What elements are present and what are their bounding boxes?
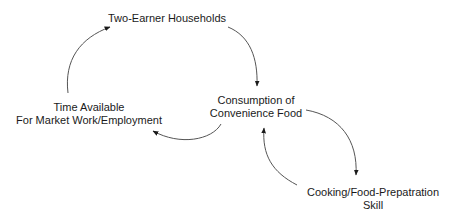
edge-consumption-to-cooking [306,110,356,175]
edge-cooking-to-consumption [264,128,297,185]
node-time-available: Time Available For Market Work/Employmen… [16,101,162,127]
node-label-line: Cooking/Food-Prepatration [307,186,439,199]
node-two-earner-households: Two-Earner Households [108,12,226,25]
node-label-line: Two-Earner Households [108,12,226,25]
node-label-line: Convenience Food [210,107,302,120]
node-label-line: Consumption of [210,94,302,107]
edge-time-to-two-earner [67,27,110,93]
edge-two-earner-to-consumption [228,27,257,86]
edge-consumption-to-time [153,124,221,140]
node-label-line: Skill [307,199,439,212]
node-label-line: Time Available [16,101,162,114]
node-label-line: For Market Work/Employment [16,114,162,127]
node-consumption-convenience-food: Consumption of Convenience Food [210,94,302,120]
node-cooking-skill: Cooking/Food-Prepatration Skill [307,186,439,212]
causal-loop-diagram: Two-Earner Households Consumption of Con… [0,0,450,221]
